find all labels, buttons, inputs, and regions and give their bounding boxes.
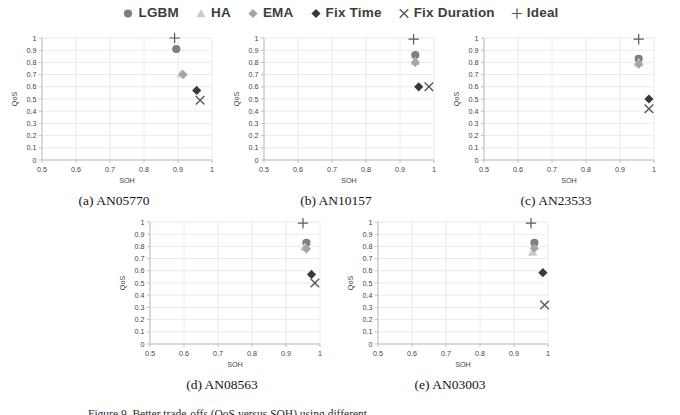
svg-text:0.8: 0.8 — [139, 165, 149, 174]
y-axis-label: QoS — [346, 276, 355, 291]
svg-text:0.9: 0.9 — [173, 165, 183, 174]
svg-text:0.7: 0.7 — [327, 165, 337, 174]
svg-text:0.7: 0.7 — [213, 349, 223, 358]
marker-fix-time — [414, 82, 423, 91]
x-axis-label: SOH — [561, 176, 577, 185]
svg-text:0.6: 0.6 — [135, 266, 145, 275]
svg-text:1: 1 — [432, 165, 436, 174]
svg-text:0.6: 0.6 — [71, 165, 81, 174]
chart-plot-area: 0.50.60.70.80.9100.10.20.30.40.50.60.70.… — [8, 30, 220, 192]
svg-text:0.4: 0.4 — [27, 107, 37, 116]
circle-icon — [121, 6, 135, 20]
svg-text:0.8: 0.8 — [247, 349, 257, 358]
chart-caption: (d) AN08563 — [116, 377, 328, 393]
svg-text:0.9: 0.9 — [249, 46, 259, 55]
scatter-plot-svg: 0.50.60.70.80.9100.10.20.30.40.50.60.70.… — [116, 214, 328, 376]
svg-text:0.8: 0.8 — [135, 242, 145, 251]
svg-text:0.8: 0.8 — [361, 165, 371, 174]
svg-text:0.6: 0.6 — [179, 349, 189, 358]
svg-text:0.1: 0.1 — [469, 143, 479, 152]
plus-glyph — [512, 8, 522, 18]
x-axis-label: SOH — [341, 176, 357, 185]
chart-plot-area: 0.50.60.70.80.9100.10.20.30.40.50.60.70.… — [344, 214, 556, 376]
svg-text:0.3: 0.3 — [249, 119, 259, 128]
svg-text:0.4: 0.4 — [249, 107, 259, 116]
chart-plot-area: 0.50.60.70.80.9100.10.20.30.40.50.60.70.… — [116, 214, 328, 376]
svg-text:0.4: 0.4 — [469, 107, 479, 116]
svg-text:0.7: 0.7 — [135, 254, 145, 263]
svg-text:0.9: 0.9 — [363, 230, 373, 239]
figure-legend: LGBMHAEMAFix TimeFix DurationIdeal — [0, 5, 680, 20]
y-axis-label: QoS — [232, 92, 241, 107]
svg-text:0.5: 0.5 — [27, 95, 37, 104]
chart-caption: (e) AN03003 — [344, 377, 556, 393]
triangle-icon — [194, 6, 208, 20]
legend-label: EMA — [263, 5, 294, 20]
svg-text:0.6: 0.6 — [469, 82, 479, 91]
svg-text:1: 1 — [33, 34, 37, 43]
y-axis-label: QoS — [118, 276, 127, 291]
scatter-chart-b: 0.50.60.70.80.9100.10.20.30.40.50.60.70.… — [230, 30, 442, 209]
svg-text:0.4: 0.4 — [135, 291, 145, 300]
chart-plot-area: 0.50.60.70.80.9100.10.20.30.40.50.60.70.… — [230, 30, 442, 192]
chart-caption: (a) AN05770 — [8, 193, 220, 209]
chart-caption: (b) AN10157 — [230, 193, 442, 209]
svg-text:0.6: 0.6 — [513, 165, 523, 174]
marker-ideal — [408, 34, 418, 44]
svg-text:0.2: 0.2 — [135, 315, 145, 324]
scatter-chart-e: 0.50.60.70.80.9100.10.20.30.40.50.60.70.… — [344, 214, 556, 393]
chart-caption: (c) AN23533 — [450, 193, 662, 209]
cross-icon — [397, 6, 411, 20]
scatter-plot-svg: 0.50.60.70.80.9100.10.20.30.40.50.60.70.… — [450, 30, 662, 192]
legend-label: Ideal — [527, 5, 559, 20]
marker-fix-duration — [196, 96, 205, 105]
svg-text:0.8: 0.8 — [469, 58, 479, 67]
marker-fix-time — [644, 94, 653, 103]
svg-text:0.5: 0.5 — [469, 95, 479, 104]
diamond-glyph — [248, 8, 257, 17]
legend-label: Fix Duration — [414, 5, 495, 20]
scatter-chart-d: 0.50.60.70.80.9100.10.20.30.40.50.60.70.… — [116, 214, 328, 393]
svg-text:0.7: 0.7 — [441, 349, 451, 358]
svg-text:0.9: 0.9 — [509, 349, 519, 358]
svg-text:0.7: 0.7 — [249, 70, 259, 79]
svg-text:1: 1 — [369, 218, 373, 227]
x-axis-label: SOH — [455, 360, 471, 369]
legend-label: Fix Time — [326, 5, 382, 20]
svg-text:0.3: 0.3 — [135, 303, 145, 312]
figure-page: LGBMHAEMAFix TimeFix DurationIdeal 0.50.… — [0, 0, 680, 415]
svg-text:0.5: 0.5 — [37, 165, 47, 174]
svg-text:0.1: 0.1 — [249, 143, 259, 152]
svg-text:0.5: 0.5 — [135, 279, 145, 288]
svg-text:0.6: 0.6 — [363, 266, 373, 275]
svg-text:0.2: 0.2 — [249, 131, 259, 140]
scatter-chart-c: 0.50.60.70.80.9100.10.20.30.40.50.60.70.… — [450, 30, 662, 209]
svg-text:0.7: 0.7 — [469, 70, 479, 79]
svg-text:0.9: 0.9 — [27, 46, 37, 55]
marker-fix-duration — [645, 104, 654, 113]
svg-text:0.1: 0.1 — [363, 327, 373, 336]
svg-text:0.3: 0.3 — [27, 119, 37, 128]
legend-item-fix-time: Fix Time — [309, 5, 382, 20]
circle-glyph — [124, 9, 132, 17]
svg-text:1: 1 — [475, 34, 479, 43]
svg-text:0.8: 0.8 — [581, 165, 591, 174]
svg-text:0.5: 0.5 — [145, 349, 155, 358]
svg-text:0.3: 0.3 — [363, 303, 373, 312]
svg-text:0.5: 0.5 — [363, 279, 373, 288]
svg-text:0: 0 — [475, 156, 479, 165]
svg-text:0: 0 — [141, 340, 145, 349]
marker-ema — [411, 58, 420, 67]
scatter-plot-svg: 0.50.60.70.80.9100.10.20.30.40.50.60.70.… — [230, 30, 442, 192]
legend-label: HA — [211, 5, 231, 20]
svg-text:0.6: 0.6 — [293, 165, 303, 174]
diamond-icon — [309, 6, 323, 20]
svg-text:0.6: 0.6 — [27, 82, 37, 91]
x-axis-label: SOH — [119, 176, 135, 185]
scatter-plot-svg: 0.50.60.70.80.9100.10.20.30.40.50.60.70.… — [344, 214, 556, 376]
legend-item-lgbm: LGBM — [121, 5, 179, 20]
marker-fix-time — [538, 268, 547, 277]
legend-label: LGBM — [138, 5, 179, 20]
marker-ideal — [526, 218, 536, 228]
svg-text:0.9: 0.9 — [395, 165, 405, 174]
